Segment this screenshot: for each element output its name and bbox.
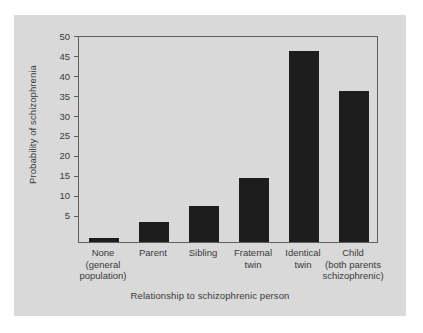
y-axis-tick: 5 [43, 210, 79, 222]
bar [189, 206, 219, 242]
y-axis-tick-mark [74, 116, 79, 117]
y-axis-tick-label: 35 [46, 91, 70, 103]
y-axis-tick-mark [74, 196, 79, 197]
x-axis-title: Relationship to schizophrenic person [14, 290, 406, 301]
y-axis-tick-label: 15 [46, 170, 70, 182]
bar [239, 178, 269, 242]
x-axis-category-label: Child (both parents schizophrenic) [314, 247, 392, 282]
y-axis-tick-mark [74, 216, 79, 217]
y-axis-tick-mark [74, 56, 79, 57]
y-axis-tick-label: 50 [46, 31, 70, 43]
y-axis-tick: 30 [43, 111, 79, 123]
y-axis-tick-label: 5 [46, 210, 70, 222]
figure-card: Probability of schizophrenia 51015202530… [14, 15, 406, 316]
y-axis-tick-label: 20 [46, 150, 70, 162]
y-axis-tick-mark [74, 156, 79, 157]
y-axis-title: Probability of schizophrenia [27, 35, 38, 215]
y-axis-tick-label: 25 [46, 130, 70, 142]
y-axis-tick-mark [74, 176, 79, 177]
y-axis-tick: 20 [43, 150, 79, 162]
y-axis-tick: 45 [43, 51, 79, 63]
plot-area: 5101520253035404550 [78, 36, 378, 243]
y-axis-tick-label: 30 [46, 111, 70, 123]
y-axis-tick-label: 40 [46, 71, 70, 83]
bar [89, 238, 119, 242]
y-axis-tick: 40 [43, 71, 79, 83]
y-axis-tick-mark [74, 76, 79, 77]
y-axis-tick: 10 [43, 190, 79, 202]
y-axis-tick-label: 45 [46, 51, 70, 63]
y-axis-tick-mark [74, 36, 79, 37]
y-axis-tick-label: 10 [46, 190, 70, 202]
y-axis-tick-mark [74, 96, 79, 97]
bar [339, 91, 369, 242]
y-axis-tick: 25 [43, 130, 79, 142]
bar [289, 51, 319, 242]
y-axis-tick: 15 [43, 170, 79, 182]
y-axis-tick-mark [74, 136, 79, 137]
y-axis-tick: 35 [43, 91, 79, 103]
bar [139, 222, 169, 242]
y-axis-tick: 50 [43, 31, 79, 43]
